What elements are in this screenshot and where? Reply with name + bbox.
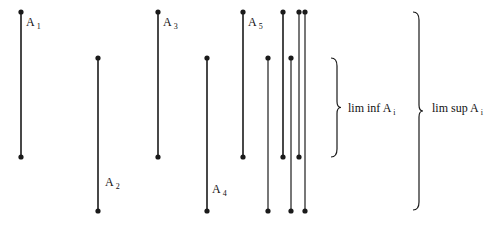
endpoint-top-dot <box>280 9 285 14</box>
set-segment-5 <box>240 9 245 159</box>
endpoint-top-dot <box>265 55 270 60</box>
set-segment-8 <box>288 55 293 213</box>
endpoint-bottom-dot <box>18 154 23 159</box>
label-a3: A3 <box>163 16 178 33</box>
set-segment-2 <box>95 55 100 213</box>
endpoint-bottom-dot <box>95 208 100 213</box>
label-lim-sup: lim sup Ai <box>432 102 483 119</box>
label-lim-sup-sub: i <box>481 108 483 117</box>
lim-inf-brace-icon <box>331 58 341 157</box>
set-lines-layer <box>0 0 496 227</box>
endpoint-bottom-dot <box>204 208 209 213</box>
label-a3-sub: 3 <box>174 22 178 31</box>
endpoint-top-dot <box>95 55 100 60</box>
endpoint-top-dot <box>288 55 293 60</box>
label-a1-text: A <box>26 15 35 29</box>
label-a2-sub: 2 <box>116 182 120 191</box>
set-segment-4 <box>204 55 209 213</box>
label-lim-inf-text: lim inf A <box>348 101 391 115</box>
label-a5-text: A <box>248 15 257 29</box>
label-lim-sup-text: lim sup A <box>432 101 479 115</box>
endpoint-bottom-dot <box>288 208 293 213</box>
set-segment-3 <box>155 9 160 159</box>
label-a2: A2 <box>105 176 120 193</box>
set-segment-6 <box>265 55 270 213</box>
label-a4-sub: 4 <box>223 189 227 198</box>
label-a1: A1 <box>26 16 41 33</box>
set-segment-7 <box>280 9 285 159</box>
diagram-canvas: A1 A2 A3 A4 A5 lim inf Ai lim sup Ai <box>0 0 496 227</box>
endpoint-top-dot <box>240 9 245 14</box>
label-a1-sub: 1 <box>37 22 41 31</box>
endpoint-top-dot <box>155 9 160 14</box>
set-segment-10 <box>302 9 307 213</box>
label-a4-text: A <box>212 182 221 196</box>
endpoint-bottom-dot <box>155 154 160 159</box>
endpoint-top-dot <box>204 55 209 60</box>
label-a4: A4 <box>212 183 227 200</box>
endpoint-bottom-dot <box>302 208 307 213</box>
label-a3-text: A <box>163 15 172 29</box>
label-a5: A5 <box>248 16 263 33</box>
label-lim-inf: lim inf Ai <box>348 102 396 119</box>
set-segment-1 <box>18 9 23 159</box>
endpoint-bottom-dot <box>280 154 285 159</box>
set-segment-9 <box>296 9 301 159</box>
endpoint-bottom-dot <box>296 154 301 159</box>
endpoint-top-dot <box>296 9 301 14</box>
lim-sup-brace-icon <box>413 12 423 210</box>
endpoint-bottom-dot <box>265 208 270 213</box>
label-a2-text: A <box>105 175 114 189</box>
endpoint-top-dot <box>18 9 23 14</box>
label-lim-inf-sub: i <box>393 108 395 117</box>
endpoint-bottom-dot <box>240 154 245 159</box>
label-a5-sub: 5 <box>259 22 263 31</box>
endpoint-top-dot <box>302 9 307 14</box>
